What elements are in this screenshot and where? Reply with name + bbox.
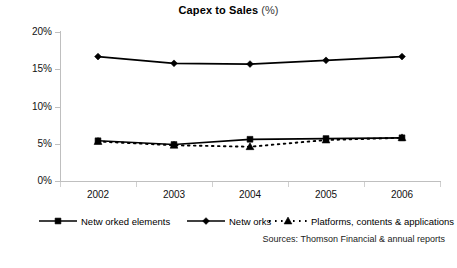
chart-legend: Netw orked elementsNetw orksPlatforms, c…	[0, 213, 457, 231]
legend-label: Netw orks	[229, 216, 271, 227]
x-axis-tick-label: 2004	[220, 189, 280, 200]
series-marker-triangle	[398, 134, 406, 141]
x-axis-line	[60, 181, 441, 182]
series-marker-triangle	[170, 141, 178, 148]
legend-marker-diamond-icon	[186, 215, 226, 227]
legend-label: Platforms, contents & applications	[311, 216, 454, 227]
series-line	[98, 138, 402, 145]
y-axis-tick-label: 5%	[4, 139, 52, 149]
series-marker-square	[323, 136, 329, 142]
x-axis-tick-label: 2006	[372, 189, 432, 200]
series-marker-triangle	[94, 138, 102, 145]
chart-title-main: Capex to Sales	[179, 4, 259, 16]
series-marker-diamond	[399, 53, 406, 60]
y-axis-tick-label: 20%	[4, 27, 52, 37]
x-axis-tick	[288, 182, 289, 187]
series-marker-diamond	[171, 60, 178, 67]
y-axis-tick	[55, 144, 60, 145]
y-axis-tick	[55, 107, 60, 108]
x-axis-tick-label: 2002	[68, 189, 128, 200]
series-marker-diamond	[95, 53, 102, 60]
series-marker-square	[399, 135, 405, 141]
y-axis-tick-label: 15%	[4, 64, 52, 74]
legend-item[interactable]: Netw orked elements	[38, 213, 170, 229]
y-axis-tick-label: 10%	[4, 102, 52, 112]
series-marker-square	[247, 136, 253, 142]
y-axis-labels: 0%5%10%15%20%	[0, 0, 52, 182]
legend-label: Netw orked elements	[81, 216, 170, 227]
series-marker-triangle	[246, 143, 254, 150]
x-axis-tick	[60, 182, 61, 187]
series-1	[95, 135, 405, 148]
series-marker-diamond	[247, 61, 254, 68]
series-marker-square	[95, 138, 101, 144]
y-axis-line	[60, 31, 61, 182]
y-axis-tick-label: 0%	[4, 176, 52, 186]
series-2	[95, 53, 406, 67]
chart-title-unit: (%)	[261, 4, 278, 16]
legend-item[interactable]: Platforms, contents & applications	[268, 213, 454, 229]
x-axis-tick-label: 2003	[144, 189, 204, 200]
series-marker-triangle	[322, 136, 330, 143]
series-line	[98, 138, 402, 147]
legend-item[interactable]: Netw orks	[186, 213, 271, 229]
x-axis-tick	[440, 182, 441, 187]
y-axis-tick	[55, 32, 60, 33]
x-axis-tick	[212, 182, 213, 187]
legend-marker-triangle-icon	[268, 215, 308, 227]
source-note: Sources: Thomson Financial & annual repo…	[263, 234, 445, 245]
series-line	[98, 57, 402, 64]
legend-marker-square-icon	[38, 215, 78, 227]
series-marker-square	[171, 142, 177, 148]
series-3	[94, 134, 406, 150]
chart-container: Capex to Sales (%) 0%5%10%15%20% 2002200…	[0, 0, 457, 268]
y-axis-tick	[55, 69, 60, 70]
x-axis-tick-label: 2005	[296, 189, 356, 200]
x-axis-tick	[364, 182, 365, 187]
series-marker-diamond	[323, 57, 330, 64]
chart-title: Capex to Sales (%)	[0, 4, 457, 17]
x-axis-tick	[136, 182, 137, 187]
